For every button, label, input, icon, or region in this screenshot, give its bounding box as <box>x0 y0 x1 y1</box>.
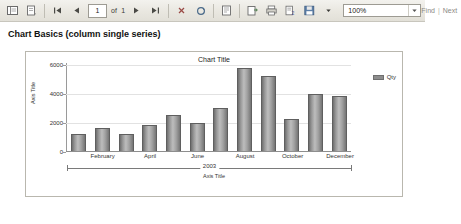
bar-july[interactable] <box>213 108 228 151</box>
bar-september[interactable] <box>261 76 276 151</box>
y-tick-mark-6000 <box>63 65 66 66</box>
print-layout-icon[interactable] <box>218 2 235 19</box>
x-tick-label-february: February <box>91 153 115 159</box>
current-page-value: 1 <box>96 7 100 14</box>
y-axis-title: Axis Title <box>30 82 36 104</box>
find-controls: Find | Next <box>421 7 461 14</box>
bar-october[interactable] <box>284 119 299 151</box>
total-pages-label: 1 <box>121 7 125 14</box>
y-tick-mark-0 <box>63 152 66 153</box>
chart-plot-area: 0200040006000 <box>66 65 351 152</box>
x-tick-label-december: December <box>326 153 354 159</box>
bar-august[interactable] <box>237 68 252 151</box>
report-toolbar: 1 of 1 <box>0 0 425 22</box>
find-next-button[interactable]: Next <box>443 7 457 14</box>
page-of-label: of <box>111 7 117 14</box>
x-tick-label-june: June <box>191 153 204 159</box>
legend-label-qty: Qty <box>387 74 396 80</box>
chart-title: Chart Title <box>26 56 402 63</box>
toolbar-separator <box>239 4 240 18</box>
print-icon[interactable] <box>263 2 280 19</box>
svg-text:2: 2 <box>292 10 295 16</box>
x-axis-group-bracket: 2003 <box>67 164 352 172</box>
page-setup-export-icon[interactable] <box>244 2 261 19</box>
y-tick-label-2000: 2000 <box>50 120 63 126</box>
x-axis-line <box>66 151 351 152</box>
report-body: Chart Basics (column single series) Char… <box>0 22 425 224</box>
bar-march[interactable] <box>119 134 134 151</box>
bracket-tick-left <box>67 165 68 171</box>
zoom-select[interactable]: 100% <box>343 4 421 17</box>
refresh-icon[interactable] <box>192 2 209 19</box>
x-tick-label-april: April <box>144 153 156 159</box>
bracket-tick-right <box>351 165 352 171</box>
find-separator: | <box>438 7 440 14</box>
save-export-icon[interactable] <box>301 2 318 19</box>
zoom-value: 100% <box>344 7 408 14</box>
bar-november[interactable] <box>308 94 323 151</box>
first-page-icon[interactable] <box>49 2 66 19</box>
legend-swatch-qty <box>373 75 384 80</box>
document-map-icon[interactable] <box>4 2 21 19</box>
page-setup-icon[interactable] <box>23 2 40 19</box>
toolbar-separator <box>213 4 214 18</box>
stop-icon[interactable] <box>173 2 190 19</box>
chart-legend: Qty <box>373 74 396 80</box>
x-axis-tick-labels: FebruaryAprilJuneAugustOctoberDecember <box>67 153 352 163</box>
x-tick-label-august: August <box>236 153 255 159</box>
report-title: Chart Basics (column single series) <box>8 29 161 39</box>
export-icon[interactable]: 2 <box>282 2 299 19</box>
chart-container: Chart Title Qty Axis Title 0200040006000… <box>25 51 403 197</box>
toolbar-separator <box>168 4 169 18</box>
bar-june[interactable] <box>190 123 205 151</box>
find-button[interactable]: Find <box>421 7 435 14</box>
y-tick-mark-2000 <box>63 123 66 124</box>
y-tick-label-6000: 6000 <box>50 62 63 68</box>
bar-series-qty <box>67 65 351 151</box>
group-label-2003: 2003 <box>200 163 219 169</box>
bar-april[interactable] <box>142 125 157 151</box>
previous-page-icon[interactable] <box>68 2 85 19</box>
next-page-icon[interactable] <box>128 2 145 19</box>
bar-january[interactable] <box>71 134 86 151</box>
y-tick-mark-4000 <box>63 94 66 95</box>
chevron-down-icon[interactable] <box>408 5 420 16</box>
current-page-input[interactable]: 1 <box>88 4 107 18</box>
x-axis-title: Axis Title <box>26 173 402 179</box>
y-tick-label-4000: 4000 <box>50 91 63 97</box>
toolbar-separator <box>44 4 45 18</box>
bar-december[interactable] <box>332 96 347 151</box>
save-dropdown-chevron-down-icon[interactable] <box>320 2 337 19</box>
bar-february[interactable] <box>95 128 110 151</box>
bar-may[interactable] <box>166 115 181 151</box>
last-page-icon[interactable] <box>147 2 164 19</box>
x-tick-label-october: October <box>282 153 303 159</box>
